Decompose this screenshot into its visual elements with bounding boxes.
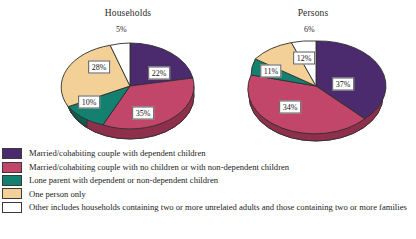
legend-label-lone-parent: Lone parent with dependent or non-depend…: [29, 176, 218, 185]
legend-swatch-one-person: [2, 188, 22, 199]
value-label-persons-one-person: 12%: [293, 52, 315, 65]
legend-swatch-couple-dependent: [2, 148, 22, 159]
pie-persons: 37% 34% 11% 12%: [242, 32, 390, 144]
pie-persons-svg: [242, 32, 390, 144]
callout-label-households-other: 5%: [116, 25, 127, 34]
value-label-households-couple-no-children: 35%: [132, 107, 154, 120]
legend-item-one-person: One person only: [2, 187, 414, 200]
legend-swatch-other: [2, 202, 22, 213]
value-label-persons-couple-dependent: 37%: [332, 78, 354, 91]
value-label-persons-lone-parent: 11%: [260, 65, 281, 78]
legend-label-couple-no-children: Married/cohabiting couple with no childr…: [29, 163, 289, 172]
chart-title-households: Households: [38, 8, 218, 18]
legend-swatch-lone-parent: [2, 175, 22, 186]
chart-legend: Married/cohabiting couple with dependent…: [2, 147, 414, 214]
chart-title-persons: Persons: [218, 8, 408, 18]
pie-chart-figure: Households 5%: [0, 0, 416, 239]
pie-households-slices: [61, 43, 194, 129]
value-label-households-lone-parent: 10%: [78, 96, 100, 109]
value-label-persons-couple-no-children: 34%: [279, 101, 301, 114]
legend-item-couple-dependent: Married/cohabiting couple with dependent…: [2, 147, 414, 160]
legend-item-other: Other includes households containing two…: [2, 201, 414, 214]
pie-households: 22% 35% 10% 28%: [60, 34, 200, 142]
legend-swatch-couple-no-children: [2, 162, 22, 173]
legend-label-one-person: One person only: [29, 190, 86, 199]
legend-item-couple-no-children: Married/cohabiting couple with no childr…: [2, 160, 414, 173]
pie-households-svg: [60, 34, 200, 142]
legend-label-other: Other includes households containing two…: [29, 203, 407, 212]
legend-item-lone-parent: Lone parent with dependent or non-depend…: [2, 174, 414, 187]
legend-label-couple-dependent: Married/cohabiting couple with dependent…: [29, 149, 206, 158]
value-label-households-one-person: 28%: [88, 61, 110, 74]
value-label-households-couple-dependent: 22%: [148, 67, 170, 80]
